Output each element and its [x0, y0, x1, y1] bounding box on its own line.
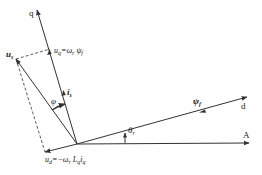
us-to-uq-dashed: [16, 49, 50, 59]
d-axis: [77, 97, 247, 144]
q-axis: [37, 10, 77, 144]
a-axis-label: A: [243, 130, 250, 140]
phi-label: φ: [51, 96, 56, 106]
theta-r-label: θr: [128, 125, 135, 136]
a-axis: [77, 143, 249, 144]
is-label: is: [67, 87, 73, 98]
us-to-ud-dashed: [16, 59, 45, 152]
q-axis-label: q: [29, 8, 34, 18]
phasor-diagram: q d A us uq=ωr ψf is φ ψf θr ud=−ωr Lqiq: [0, 0, 262, 175]
us-label: us: [6, 49, 14, 60]
ud-vector: [45, 144, 77, 152]
uq-equation-label: uq=ωr ψf: [54, 46, 84, 56]
ud-equation-label: ud=−ωr Lqiq: [45, 155, 85, 165]
d-axis-label: d: [241, 101, 246, 111]
uq-arrowhead: [47, 49, 51, 55]
us-vector: [16, 59, 77, 144]
psi-f-label: ψf: [193, 96, 202, 107]
